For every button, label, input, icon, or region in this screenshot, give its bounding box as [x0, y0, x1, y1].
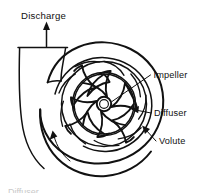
- diffuser-label: Diffuser: [154, 108, 187, 118]
- impeller: [65, 65, 137, 142]
- impeller-leader-line: [112, 75, 151, 102]
- impeller-hub: [97, 97, 111, 111]
- impeller-hub-inner: [100, 100, 109, 109]
- volute-label: Volute: [159, 136, 185, 146]
- impeller-label: Impeller: [154, 70, 188, 80]
- figure-caption-partial: Diffuser: [8, 187, 208, 193]
- pump-diagram-figure: Impeller Diffuser Volute Discharge Diffu…: [0, 0, 216, 193]
- impeller-blades: [65, 65, 137, 142]
- pump-diagram-canvas: Impeller Diffuser Volute Discharge: [0, 0, 216, 193]
- discharge-label: Discharge: [21, 10, 66, 21]
- discharge-arrow-icon: [43, 22, 50, 47]
